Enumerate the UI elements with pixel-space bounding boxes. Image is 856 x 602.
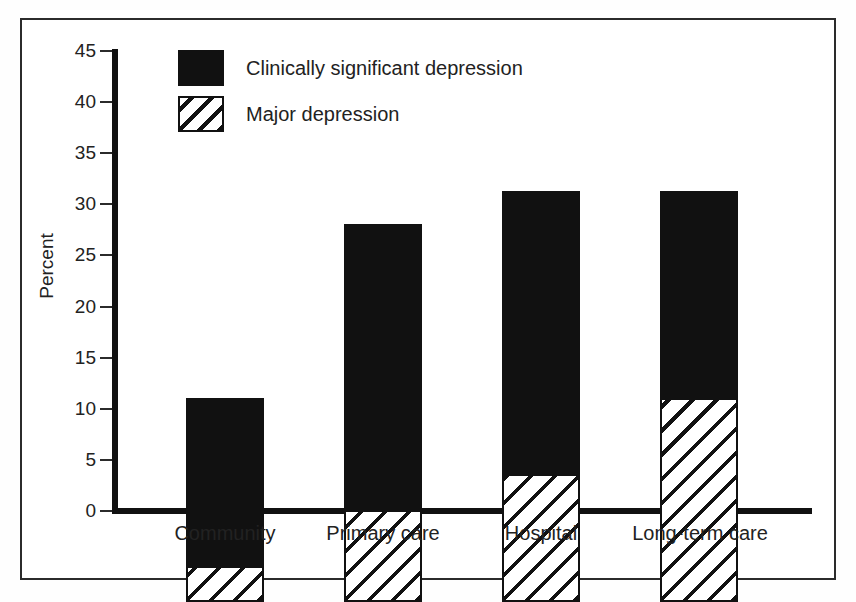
- bar-primary-care-segment-clinically-significant: [344, 224, 422, 510]
- y-tick-40: [100, 101, 112, 103]
- legend-item-clinically-significant: Clinically significant depression: [178, 48, 523, 88]
- solid-black-swatch-icon: [178, 50, 224, 86]
- bar-hospital-segment-clinically-significant: [502, 191, 580, 474]
- y-tick-25: [100, 254, 112, 256]
- y-tick-30: [100, 203, 112, 205]
- bar-long-term-care-segment-clinically-significant: [660, 191, 738, 397]
- legend-item-major-depression: Major depression: [178, 94, 523, 134]
- x-tick-label-community: Community: [145, 522, 305, 545]
- y-tick-label-0: 0: [58, 501, 96, 520]
- y-axis-line: [112, 49, 118, 513]
- legend-label-clinically-significant: Clinically significant depression: [246, 57, 523, 80]
- y-tick-20: [100, 306, 112, 308]
- bar-primary-care[interactable]: [344, 224, 422, 602]
- legend-label-major-depression: Major depression: [246, 103, 399, 126]
- y-tick-label-25: 25: [58, 245, 96, 264]
- x-tick-label-primary-care: Primary care: [303, 522, 463, 545]
- figure-container: Percent 45 40 35 30 25 20 15 10 5 0: [0, 0, 856, 602]
- y-tick-label-45: 45: [58, 41, 96, 60]
- bar-community-segment-major: [186, 566, 264, 602]
- y-tick-label-30: 30: [58, 194, 96, 213]
- y-tick-5: [100, 459, 112, 461]
- y-tick-10: [100, 408, 112, 410]
- y-tick-15: [100, 357, 112, 359]
- y-tick-label-5: 5: [58, 450, 96, 469]
- y-tick-45: [100, 50, 112, 52]
- y-tick-35: [100, 152, 112, 154]
- legend: Clinically significant depression Major …: [178, 48, 523, 140]
- y-tick-label-15: 15: [58, 348, 96, 367]
- y-tick-0: [100, 510, 112, 512]
- x-tick-label-long-term-care: Long-term care: [615, 522, 785, 545]
- y-tick-label-10: 10: [58, 399, 96, 418]
- y-tick-label-35: 35: [58, 143, 96, 162]
- bar-community[interactable]: [186, 398, 264, 602]
- bar-long-term-care-segment-major: [660, 398, 738, 602]
- y-tick-label-20: 20: [58, 297, 96, 316]
- plot-area: Percent 45 40 35 30 25 20 15 10 5 0: [0, 0, 856, 602]
- hatched-swatch-icon: [178, 96, 224, 132]
- y-tick-label-40: 40: [58, 92, 96, 111]
- x-tick-label-hospital: Hospital: [461, 522, 621, 545]
